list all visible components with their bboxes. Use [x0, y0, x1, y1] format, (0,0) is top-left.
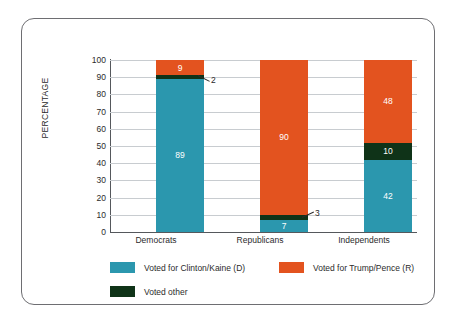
bar-value-independents-trump: 48: [383, 97, 392, 106]
y-tick-100: 100: [76, 55, 106, 65]
x-category-republicans: Republicans: [205, 235, 315, 245]
bar-segment-independents-other[interactable]: 10: [364, 143, 412, 160]
bar-segment-democrats-other[interactable]: [156, 75, 204, 78]
y-tick-20: 20: [76, 193, 106, 203]
y-tick-50: 50: [76, 141, 106, 151]
bar-value-democrats-trump: 9: [178, 64, 183, 73]
y-tick-70: 70: [76, 107, 106, 117]
legend-item-trump[interactable]: Voted for Trump/Pence (R): [279, 262, 414, 273]
legend-item-other[interactable]: Voted other: [110, 286, 187, 297]
bar-value-independents-other: 10: [383, 147, 392, 156]
x-category-democrats: Democrats: [101, 235, 211, 245]
y-tick-10: 10: [76, 210, 106, 220]
figure-card: PERCENTAGE 100 90 80 70 60 50 40 30 20 1…: [21, 18, 435, 305]
legend-item-clinton[interactable]: Voted for Clinton/Kaine (D): [110, 262, 245, 273]
legend-label-other: Voted other: [144, 287, 187, 297]
y-tick-40: 40: [76, 158, 106, 168]
bar-segment-democrats-trump[interactable]: 9: [156, 60, 204, 75]
bar-segment-independents-trump[interactable]: 48: [364, 60, 412, 143]
y-axis-tick-labels: 100 90 80 70 60 50 40 30 20 10 0: [74, 60, 106, 232]
bar-segment-republicans-trump[interactable]: 90: [260, 60, 308, 215]
legend-swatch-clinton-icon: [110, 262, 135, 273]
bar-segment-independents-clinton[interactable]: 42: [364, 160, 412, 232]
y-axis-title: PERCENTAGE: [40, 48, 50, 168]
stacked-bar-chart: PERCENTAGE 100 90 80 70 60 50 40 30 20 1…: [22, 19, 436, 306]
legend-swatch-other-icon: [110, 286, 135, 297]
y-tick-60: 60: [76, 124, 106, 134]
callout-label-democrats-other: 2: [211, 75, 216, 85]
y-tick-80: 80: [76, 89, 106, 99]
bar-value-republicans-trump: 90: [279, 133, 288, 142]
y-tick-30: 30: [76, 175, 106, 185]
x-category-independents: Independents: [309, 235, 419, 245]
legend-label-clinton: Voted for Clinton/Kaine (D): [144, 263, 245, 273]
plot-area: 89 9 7 90 42: [110, 60, 417, 232]
gridline-0-baseline: [110, 232, 417, 233]
bar-segment-republicans-clinton[interactable]: 7: [260, 220, 308, 232]
bar-segment-democrats-clinton[interactable]: 89: [156, 79, 204, 232]
legend-label-trump: Voted for Trump/Pence (R): [313, 263, 414, 273]
y-tick-90: 90: [76, 72, 106, 82]
bar-value-republicans-clinton: 7: [282, 222, 287, 231]
legend-swatch-trump-icon: [279, 262, 304, 273]
bar-segment-republicans-other[interactable]: [260, 215, 308, 220]
callout-label-republicans-other: 3: [315, 208, 320, 218]
bar-value-democrats-clinton: 89: [175, 151, 184, 160]
bar-value-independents-clinton: 42: [383, 192, 392, 201]
